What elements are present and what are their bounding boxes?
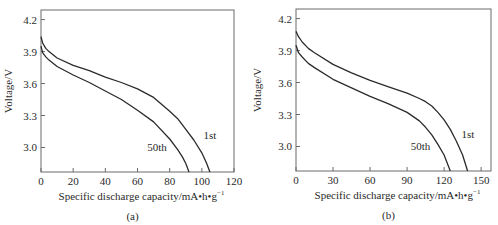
y-tick-label: 3.0 — [278, 140, 292, 152]
y-tick-label: 3.9 — [23, 46, 37, 58]
discharge-chart-a: 3.03.33.63.94.2020406080100120Voltage/VS… — [0, 0, 249, 225]
series-label-50th: 50th — [147, 141, 167, 153]
series-label-1st: 1st — [461, 128, 474, 140]
x-tick-label: 80 — [164, 175, 176, 187]
y-tick-label: 4.2 — [23, 14, 37, 26]
x-axis-label: Specific discharge capacity/mA•h•g−1 — [59, 189, 225, 202]
panel-caption: (b) — [382, 209, 395, 222]
y-tick-label: 4.2 — [278, 13, 292, 25]
x-tick-label: 60 — [365, 174, 377, 186]
y-tick-label: 3.3 — [23, 110, 37, 122]
y-tick-label: 3.0 — [23, 141, 37, 153]
y-tick-label: 3.3 — [278, 109, 292, 121]
x-tick-label: 90 — [402, 174, 414, 186]
curve-1st — [41, 37, 210, 172]
panel-caption: (a) — [126, 210, 139, 223]
x-tick-label: 0 — [38, 175, 44, 187]
y-axis-label: Voltage/V — [2, 69, 14, 113]
curve-50th — [296, 45, 450, 171]
chart-panel-b: 3.03.33.63.94.20306090120150Voltage/VSpe… — [249, 0, 498, 225]
x-tick-label: 30 — [328, 174, 340, 186]
y-tick-label: 3.6 — [23, 78, 37, 90]
plot-frame — [296, 9, 491, 171]
series-label-1st: 1st — [203, 129, 216, 141]
x-tick-label: 20 — [68, 175, 80, 187]
x-tick-label: 100 — [194, 175, 211, 187]
x-tick-label: 150 — [473, 174, 490, 186]
chart-panel-a: 3.03.33.63.94.2020406080100120Voltage/VS… — [0, 0, 249, 225]
x-tick-label: 40 — [100, 175, 112, 187]
y-tick-label: 3.6 — [278, 77, 292, 89]
x-axis-label: Specific discharge capacity/mA•h•g−1 — [315, 188, 481, 201]
series-label-50th: 50th — [411, 140, 431, 152]
plot-frame — [41, 10, 234, 172]
x-tick-label: 60 — [132, 175, 144, 187]
x-tick-label: 0 — [293, 174, 299, 186]
x-tick-label: 120 — [436, 174, 453, 186]
y-axis-label: Voltage/V — [251, 68, 263, 112]
discharge-chart-b: 3.03.33.63.94.20306090120150Voltage/VSpe… — [249, 0, 498, 225]
y-tick-label: 3.9 — [278, 45, 292, 57]
x-tick-label: 120 — [226, 175, 243, 187]
